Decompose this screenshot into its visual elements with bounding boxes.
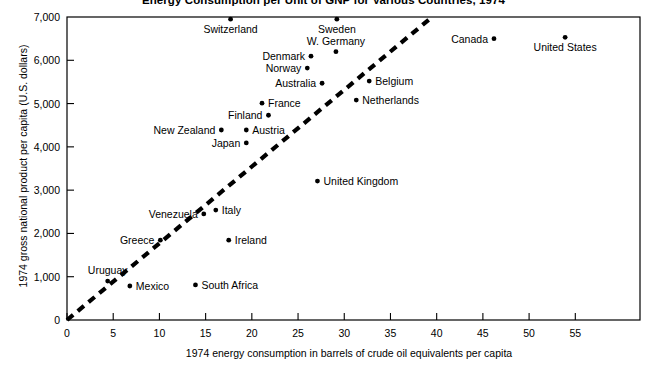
data-point (492, 36, 497, 41)
data-point (334, 49, 339, 54)
y-tick-label: 3,000 (34, 184, 60, 196)
data-point-label: Italy (222, 204, 242, 216)
data-point (201, 212, 206, 217)
x-tick-label: 45 (477, 327, 489, 339)
data-point-label: Belgium (375, 75, 413, 87)
y-tick-label: 2,000 (34, 227, 60, 239)
data-point-label: Mexico (136, 280, 169, 292)
y-tick-label: 4,000 (34, 141, 60, 153)
data-point (158, 238, 163, 243)
data-point-label: W. Germany (307, 35, 366, 47)
data-point-label: Austria (252, 124, 285, 136)
x-tick-label: 50 (523, 327, 535, 339)
x-tick-label: 25 (292, 327, 304, 339)
data-point-label: Finland (228, 109, 263, 121)
y-tick-label: 6,000 (34, 54, 60, 66)
x-tick-label: 55 (569, 327, 581, 339)
y-tick-label: 7,000 (34, 11, 60, 23)
x-tick-label: 15 (200, 327, 212, 339)
data-point (219, 128, 224, 133)
data-point (244, 141, 249, 146)
data-point (563, 35, 568, 40)
data-point (334, 17, 339, 22)
data-point (228, 17, 233, 22)
x-tick-label: 0 (64, 327, 70, 339)
data-point-label: Norway (266, 62, 302, 74)
data-point-label: Venezuela (149, 208, 198, 220)
data-point-labels-group: SwitzerlandSwedenCanadaUnited StatesW. G… (88, 23, 597, 292)
data-point (105, 279, 110, 284)
data-point-label: Japan (212, 137, 241, 149)
plot-frame (67, 17, 640, 320)
data-point-label: Ireland (235, 234, 267, 246)
data-point-label: France (268, 97, 301, 109)
data-point (367, 79, 372, 84)
data-point-label: New Zealand (153, 124, 215, 136)
scatter-plot-canvas: 051015202530354045505501,0002,0003,0004,… (0, 0, 647, 371)
y-tick-label: 0 (54, 314, 60, 326)
chart-figure: Energy Consumption per Unit of GNP for V… (0, 0, 647, 371)
data-point (305, 66, 310, 71)
data-point-label: Australia (275, 77, 316, 89)
data-point-label: South Africa (201, 279, 258, 291)
data-point-label: Uruguay (88, 264, 128, 276)
data-point-label: Switzerland (203, 23, 257, 35)
x-axis-label: 1974 energy consumption in barrels of cr… (67, 347, 631, 359)
data-point-label: Canada (451, 33, 488, 45)
data-point (309, 54, 314, 59)
x-tick-label: 35 (385, 327, 397, 339)
x-tick-label: 10 (154, 327, 166, 339)
data-point (193, 283, 198, 288)
data-point-label: Denmark (262, 50, 305, 62)
data-point (315, 179, 320, 184)
x-tick-label: 20 (246, 327, 258, 339)
data-points-group (105, 17, 567, 289)
x-tick-label: 30 (338, 327, 350, 339)
data-point-label: Greece (120, 234, 155, 246)
data-point (320, 81, 325, 86)
data-point (266, 113, 271, 118)
data-point (213, 208, 218, 213)
y-axis-label: 1974 gross national product per capita (… (17, 6, 29, 326)
data-point (244, 128, 249, 133)
data-point-label: Sweden (318, 23, 356, 35)
y-tick-label: 1,000 (34, 271, 60, 283)
data-point (260, 101, 265, 106)
data-point (226, 238, 231, 243)
data-point-label: United States (534, 41, 597, 53)
x-tick-label: 40 (431, 327, 443, 339)
data-point (127, 284, 132, 289)
data-point (354, 98, 359, 103)
y-tick-label: 5,000 (34, 98, 60, 110)
data-point-label: United Kingdom (323, 175, 398, 187)
data-point-label: Netherlands (362, 94, 419, 106)
x-tick-label: 5 (110, 327, 116, 339)
